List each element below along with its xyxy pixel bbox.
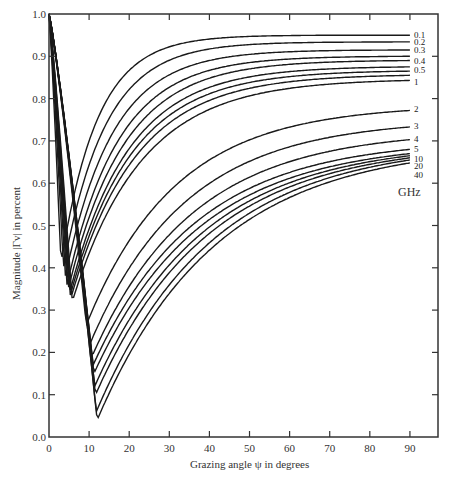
x-tick-label: 10 (84, 442, 96, 454)
x-tick-label: 30 (164, 442, 176, 454)
frequency-unit-label: GHz (398, 185, 421, 199)
x-tick-label: 70 (324, 442, 336, 454)
y-tick-label: 0.2 (32, 346, 46, 358)
curve-label: 4 (414, 134, 419, 144)
y-tick-label: 0.3 (32, 304, 46, 316)
curve-label: 0.3 (414, 45, 426, 55)
x-tick-label: 0 (46, 442, 52, 454)
x-tick-label: 90 (404, 442, 416, 454)
x-tick-label: 50 (244, 442, 256, 454)
curve-8-ghz (49, 14, 410, 386)
x-tick-label: 40 (204, 442, 216, 454)
y-tick-label: 0.7 (32, 135, 46, 147)
curve-label: 3 (414, 121, 419, 131)
x-tick-label: 60 (284, 442, 296, 454)
x-tick-label: 20 (124, 442, 136, 454)
curve-5-ghz (49, 14, 410, 365)
y-axis-title: Magnitude |Γv| in percent (10, 187, 22, 300)
y-tick-label: 0.9 (32, 50, 46, 62)
y-tick-label: 0.6 (32, 177, 46, 189)
curve-group (49, 14, 410, 418)
curve-3-ghz (49, 14, 410, 344)
x-tick-label: 80 (364, 442, 376, 454)
curve-label: 40 (414, 170, 424, 180)
x-axis-title: Grazing angle ψ in degrees (190, 458, 309, 470)
y-tick-label: 0.0 (32, 431, 46, 443)
curve-40-ghz (49, 14, 410, 418)
curve-label: 1 (414, 77, 419, 87)
y-tick-label: 0.5 (32, 220, 46, 232)
reflection-coefficient-chart: 01020304050607080900.00.10.20.30.40.50.6… (0, 0, 452, 482)
curve-0.3-ghz (49, 14, 410, 276)
y-tick-label: 0.4 (32, 262, 46, 274)
curve-label: 5 (414, 144, 419, 154)
y-tick-label: 0.8 (32, 93, 46, 105)
curve-label: 2 (414, 104, 419, 114)
y-tick-label: 0.1 (32, 389, 46, 401)
curve-labels: 0.10.20.30.40.512345102040 (414, 30, 426, 180)
curve-label: 0.5 (414, 65, 426, 75)
y-tick-label: 1.0 (32, 8, 46, 20)
curve-0.2-ghz (49, 14, 410, 266)
curve-0.8-ghz (49, 14, 410, 294)
